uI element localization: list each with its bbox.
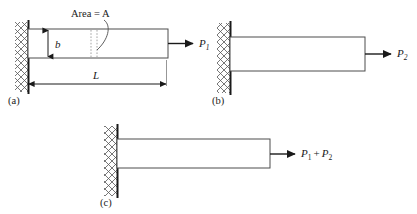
figure-canvas: Area = A b L P1 P2 P1+P2 (a) (b) (c)	[0, 0, 417, 214]
force-label-b-sub: 2	[404, 53, 408, 62]
force-label-c-sub1: 1	[308, 153, 312, 162]
fixed-support-hatch-icon-b	[217, 21, 231, 95]
caption-b: (b)	[212, 95, 225, 107]
svg-text:P1: P1	[198, 37, 209, 52]
bar-a	[28, 29, 168, 58]
fixed-support-hatch-icon	[15, 20, 29, 94]
force-label-c-sub2: 2	[328, 153, 332, 162]
fixed-support-hatch-icon-c	[104, 124, 118, 198]
force-label-b: P2	[396, 47, 408, 62]
force-label-c: P1+P2	[300, 147, 332, 162]
length-label: L	[92, 69, 99, 81]
superposition-diagram: Area = A b L P1 P2 P1+P2 (a) (b) (c)	[0, 0, 417, 214]
area-label: Area = A	[71, 8, 110, 19]
caption-c: (c)	[100, 197, 112, 209]
height-label: b	[55, 38, 61, 50]
svg-text:P2: P2	[396, 47, 408, 62]
panel-c	[104, 124, 295, 198]
bar-b	[230, 37, 365, 71]
force-label-c-plus: +	[313, 147, 319, 159]
svg-text:P1+P2: P1+P2	[300, 147, 332, 162]
panel-a	[15, 20, 193, 94]
panel-b	[217, 21, 391, 95]
force-label-a: P1	[198, 37, 209, 52]
caption-a: (a)	[8, 95, 20, 107]
force-label-a-sub: 1	[206, 43, 210, 52]
bar-c	[117, 139, 270, 168]
